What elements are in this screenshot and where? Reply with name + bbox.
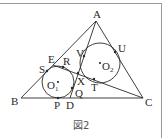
label-s: S [39,63,45,75]
label-r: R [63,55,71,67]
point-t-dot [93,78,95,80]
segment-ec [53,65,143,98]
label-a: A [93,8,101,20]
label-o1: O1 [47,79,59,93]
label-p: P [54,99,60,111]
point-x-dot [77,72,79,74]
point-q-dot [71,87,73,89]
label-o2: O2 [102,60,114,74]
label-x: X [77,75,85,87]
geometry-diagram: A B C D E S R V U X T Q P O1 O2 図2 [0,0,166,138]
label-v: V [76,47,84,59]
label-e: E [48,53,55,65]
label-q: Q [75,87,83,99]
label-c: C [145,96,152,108]
center-o2-dot [99,62,101,64]
point-u-dot [114,51,116,53]
label-t: T [91,81,98,93]
label-d: D [66,99,74,111]
center-o1-dot [57,81,59,83]
figure-caption: 図2 [73,120,89,131]
label-b: B [11,95,18,107]
label-u: U [118,42,126,54]
point-s-dot [46,70,48,72]
